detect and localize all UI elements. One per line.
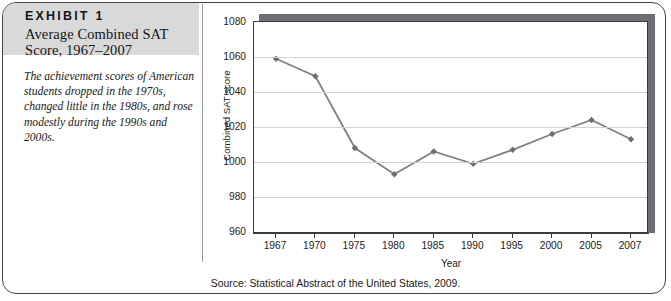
series-line (276, 59, 631, 175)
y-tick-label: 1040 (212, 86, 246, 97)
y-tick-label: 1020 (212, 121, 246, 132)
data-point-marker (509, 147, 515, 153)
x-tick-label: 1967 (264, 240, 287, 251)
x-tick-label: 2007 (619, 240, 642, 251)
exhibit-title-line2: Score, 1967–2007 (25, 42, 199, 58)
x-tick-mark (630, 233, 631, 238)
x-tick-mark (512, 233, 513, 238)
chart-container: Combined SAT score 960980100010201040106… (210, 14, 662, 276)
x-axis-label: Year (253, 258, 649, 269)
x-tick-mark (433, 233, 434, 238)
exhibit-title-line1: Average Combined SAT (25, 26, 199, 42)
y-tick-label: 1000 (212, 156, 246, 167)
x-tick-mark (393, 233, 394, 238)
exhibit-label: EXHIBIT 1 (25, 9, 199, 24)
exhibit-caption: The achievement scores of American stude… (24, 69, 196, 145)
x-tick-label: 1970 (303, 240, 326, 251)
x-tick-label: 1985 (421, 240, 444, 251)
x-tick-mark (354, 233, 355, 238)
vertical-divider (202, 4, 203, 262)
y-tick-label: 1080 (212, 16, 246, 27)
exhibit-page: EXHIBIT 1 Average Combined SAT Score, 19… (0, 0, 671, 301)
x-tick-mark (314, 233, 315, 238)
plot-shadow-top (259, 14, 655, 21)
x-tick-label: 1990 (461, 240, 484, 251)
x-tick-label: 2000 (540, 240, 563, 251)
exhibit-header: EXHIBIT 1 Average Combined SAT Score, 19… (3, 3, 199, 55)
source-note: Source: Statistical Abstract of the Unit… (0, 278, 671, 289)
x-tick-mark (591, 233, 592, 238)
x-tick-mark (472, 233, 473, 238)
data-point-marker (588, 117, 594, 123)
gridline (254, 162, 647, 163)
plot-shadow-right (648, 14, 655, 233)
x-tick-label: 2005 (579, 240, 602, 251)
gridline (254, 197, 647, 198)
x-tick-label: 1995 (500, 240, 523, 251)
y-tick-label: 960 (212, 226, 246, 237)
plot-area (253, 21, 648, 233)
x-tick-mark (551, 233, 552, 238)
x-tick-label: 1975 (343, 240, 366, 251)
y-tick-label: 1060 (212, 51, 246, 62)
data-point-marker (628, 136, 634, 142)
y-tick-label: 980 (212, 191, 246, 202)
gridline (254, 127, 647, 128)
gridline (254, 57, 647, 58)
gridline (254, 92, 647, 93)
x-tick-label: 1980 (382, 240, 405, 251)
x-tick-mark (275, 233, 276, 238)
data-point-marker (312, 73, 318, 79)
y-axis-ticks: 96098010001020104010601080 (210, 14, 246, 276)
data-point-marker (549, 131, 555, 137)
plot-frame (253, 14, 655, 239)
